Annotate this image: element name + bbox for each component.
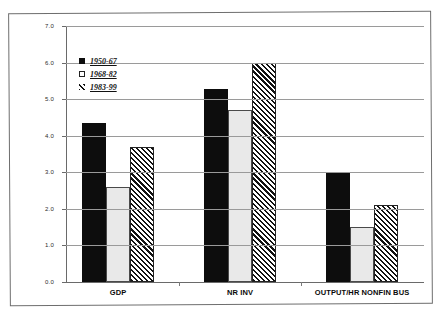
chart-legend: 1950-671968-821983-99: [79, 55, 157, 94]
y-tick-label-2.0: 2.0: [18, 206, 54, 212]
bar-nr-inv-1950-67: [204, 89, 228, 282]
legend-swatch-icon-1950-67: [79, 58, 85, 64]
bar-output-hr-nonfin-bus-1950-67: [326, 172, 350, 282]
y-tick-label-4.0: 4.0: [18, 133, 54, 139]
gridline-4.0: [66, 136, 424, 137]
y-tick-label-6.0: 6.0: [18, 60, 54, 66]
legend-swatch-icon-1983-99: [79, 84, 85, 90]
legend-label: 1968-82: [90, 70, 117, 79]
legend-label: 1950-67: [90, 57, 117, 66]
x-axis-label-output-hr-nonfin-bus: OUTPUT/HR NONFIN BUS: [282, 288, 442, 297]
gridline-0.0: [66, 282, 424, 283]
bar-gdp-1983-99: [130, 147, 154, 282]
y-tick-label-3.0: 3.0: [18, 169, 54, 175]
x-axis-tick: [301, 282, 302, 286]
y-tick-label-5.0: 5.0: [18, 96, 54, 102]
chart-figure: 0.01.02.03.04.05.06.07.0 GDPNR INVOUTPUT…: [0, 0, 442, 318]
gridline-7.0: [66, 26, 424, 27]
legend-item-1968-82: 1968-82: [79, 68, 157, 80]
y-tick-label-7.0: 7.0: [18, 23, 54, 29]
gridline-5.0: [66, 99, 424, 100]
bar-gdp-1968-82: [106, 187, 130, 282]
bar-output-hr-nonfin-bus-1983-99: [374, 205, 398, 282]
bar-output-hr-nonfin-bus-1968-82: [350, 227, 374, 282]
legend-item-1983-99: 1983-99: [79, 81, 157, 93]
legend-item-1950-67: 1950-67: [79, 55, 157, 67]
y-tick-label-0.0: 0.0: [18, 279, 54, 285]
legend-swatch-icon-1968-82: [79, 71, 85, 77]
x-axis-tick: [179, 282, 180, 286]
gridline-3.0: [66, 172, 424, 173]
gridline-1.0: [66, 245, 424, 246]
bar-gdp-1950-67: [82, 123, 106, 282]
legend-label: 1983-99: [90, 83, 117, 92]
gridline-2.0: [66, 209, 424, 210]
y-tick-label-1.0: 1.0: [18, 242, 54, 248]
